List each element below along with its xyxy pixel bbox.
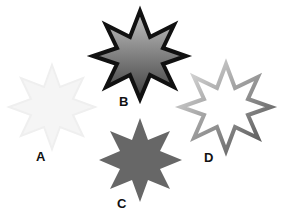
label-c: C <box>117 196 126 211</box>
star-b-shape <box>93 11 186 99</box>
star-d-shape <box>181 64 271 151</box>
star-a-shape <box>9 65 95 149</box>
label-a: A <box>36 149 45 164</box>
label-b: B <box>119 94 128 109</box>
star-diagram <box>0 0 288 218</box>
star-c-shape <box>99 118 182 202</box>
label-d: D <box>204 150 213 165</box>
